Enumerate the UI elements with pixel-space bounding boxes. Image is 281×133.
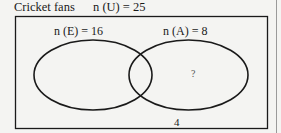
set-e-ellipse: [34, 40, 152, 110]
only-a-region-value: ?: [191, 67, 195, 80]
diagram-title: Cricket fans: [14, 0, 75, 14]
universal-set-count: n (U) = 25: [93, 0, 146, 14]
venn-diagram: [0, 0, 281, 133]
outside-region-value: 4: [174, 116, 180, 129]
set-e-label: n (E) = 16: [54, 25, 103, 38]
set-a-ellipse: [129, 40, 248, 110]
set-a-label: n (A) = 8: [163, 25, 207, 38]
